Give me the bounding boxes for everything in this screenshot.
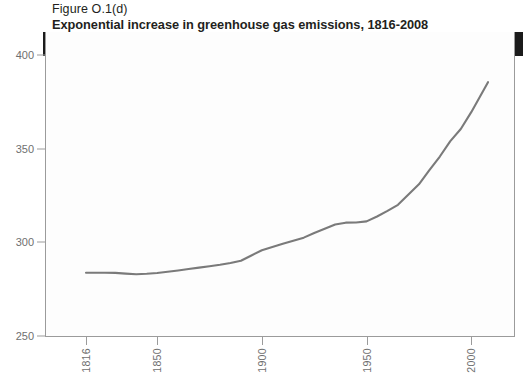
x-axis-tick-label: 1816 bbox=[80, 348, 92, 373]
x-axis-tick-label: 1900 bbox=[256, 348, 268, 373]
y-axis-tick-mark bbox=[37, 242, 45, 243]
x-axis-tick-label: 2000 bbox=[465, 348, 477, 373]
x-axis-tick-mark bbox=[367, 337, 368, 345]
x-axis-tick-label: 1950 bbox=[361, 348, 373, 373]
y-axis-tick-label: 400 bbox=[4, 49, 34, 61]
y-axis-tick-mark bbox=[37, 55, 45, 56]
x-axis-tick-mark bbox=[471, 337, 472, 345]
figure-title: Exponential increase in greenhouse gas e… bbox=[52, 17, 428, 32]
y-axis-tick-mark bbox=[37, 148, 45, 149]
y-axis-tick-label: 300 bbox=[4, 236, 34, 248]
x-axis-tick-label: 1850 bbox=[151, 348, 163, 373]
x-axis-tick-mark bbox=[262, 337, 263, 345]
chart-series-svg bbox=[45, 32, 515, 337]
y-axis-tick-mark bbox=[37, 336, 45, 337]
x-axis-tick-mark bbox=[157, 337, 158, 345]
figure-caption: Figure O.1(d) bbox=[52, 2, 128, 16]
x-axis-tick-mark bbox=[86, 337, 87, 345]
y-axis-tick-label: 250 bbox=[4, 330, 34, 342]
y-axis-tick-label: 350 bbox=[4, 143, 34, 155]
co2-line bbox=[86, 82, 488, 274]
